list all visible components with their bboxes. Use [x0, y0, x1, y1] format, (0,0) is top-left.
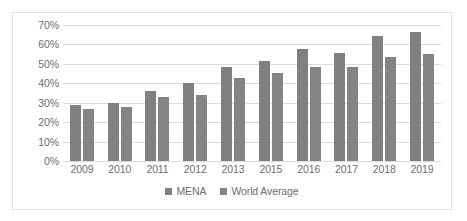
- legend-swatch-icon: [220, 188, 227, 195]
- y-axis-tick-label: 10%: [38, 136, 59, 148]
- legend-item[interactable]: World Average: [220, 185, 298, 197]
- bar: [334, 53, 345, 161]
- plot-wrapper: 0%10%20%30%40%50%60%70% 2009201020112012…: [13, 13, 451, 209]
- legend-swatch-icon: [165, 188, 172, 195]
- chart-legend: MENAWorld Average: [13, 185, 451, 197]
- x-axis-tick-label: 2011: [139, 163, 177, 179]
- x-axis-tick-label: 2019: [403, 163, 441, 179]
- bar-group: [101, 25, 139, 161]
- y-axis-tick-label: 70%: [38, 19, 59, 31]
- bar: [121, 107, 132, 161]
- bar: [108, 103, 119, 161]
- y-axis-tick-label: 20%: [38, 116, 59, 128]
- y-axis: 0%10%20%30%40%50%60%70%: [27, 25, 59, 161]
- bar-group: [252, 25, 290, 161]
- bar-group: [403, 25, 441, 161]
- x-axis-tick-label: 2017: [328, 163, 366, 179]
- bar: [410, 32, 421, 161]
- bar: [183, 83, 194, 161]
- bar: [423, 54, 434, 161]
- legend-label: MENA: [176, 185, 206, 197]
- bar-groups: [63, 25, 441, 161]
- y-axis-tick-label: 0%: [44, 155, 59, 167]
- bar: [70, 105, 81, 161]
- bar-group: [139, 25, 177, 161]
- x-axis-tick-label: 2016: [290, 163, 328, 179]
- bar: [234, 78, 245, 161]
- x-axis-tick-label: 2015: [252, 163, 290, 179]
- bar: [310, 67, 321, 161]
- gridline: [63, 161, 441, 162]
- bar-group: [176, 25, 214, 161]
- bar-group: [63, 25, 101, 161]
- bar-group: [290, 25, 328, 161]
- x-axis-tick-label: 2013: [214, 163, 252, 179]
- bar: [145, 91, 156, 161]
- y-axis-tick-label: 40%: [38, 77, 59, 89]
- bar: [158, 97, 169, 161]
- bar: [259, 61, 270, 161]
- bar: [83, 109, 94, 161]
- legend-item[interactable]: MENA: [165, 185, 206, 197]
- plot-area: [63, 25, 441, 161]
- y-axis-tick-label: 50%: [38, 58, 59, 70]
- bar: [297, 49, 308, 161]
- x-axis: 2009201020112012201320152016201720182019: [63, 163, 441, 179]
- bar: [196, 95, 207, 161]
- bar: [385, 57, 396, 161]
- bar-group: [328, 25, 366, 161]
- chart-container: 0%10%20%30%40%50%60%70% 2009201020112012…: [12, 12, 452, 210]
- y-axis-tick-label: 60%: [38, 38, 59, 50]
- y-axis-tick-label: 30%: [38, 97, 59, 109]
- x-axis-tick-label: 2010: [101, 163, 139, 179]
- bar: [221, 67, 232, 161]
- legend-label: World Average: [231, 185, 298, 197]
- x-axis-tick-label: 2012: [176, 163, 214, 179]
- bar: [272, 73, 283, 161]
- x-axis-tick-label: 2018: [365, 163, 403, 179]
- x-axis-tick-label: 2009: [63, 163, 101, 179]
- bar: [372, 36, 383, 161]
- bar-group: [214, 25, 252, 161]
- bar: [347, 67, 358, 161]
- bar-group: [365, 25, 403, 161]
